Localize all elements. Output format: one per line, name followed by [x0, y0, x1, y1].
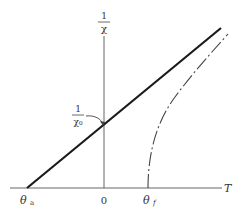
theta-a-label: θ a: [20, 194, 34, 207]
x-axis-label: T: [224, 182, 233, 195]
y-axis-label: 1 χ: [98, 11, 110, 34]
svg-text:θ: θ: [143, 194, 150, 207]
svg-text:f: f: [152, 199, 157, 207]
dash-dot-curve: [148, 34, 228, 188]
svg-text:1: 1: [101, 11, 107, 21]
curie-weiss-diagram: 1 χ 1 χ₀ T θ a 0 θ f: [0, 0, 239, 210]
svg-text:θ: θ: [20, 194, 27, 207]
svg-text:1: 1: [75, 104, 81, 114]
origin-label: 0: [101, 195, 107, 206]
theta-f-label: θ f: [143, 194, 157, 207]
svg-text:χ: χ: [101, 23, 107, 34]
svg-text:χ₀: χ₀: [73, 117, 82, 127]
intercept-label: 1 χ₀: [72, 104, 84, 127]
svg-text:a: a: [30, 199, 34, 207]
intercept-arrow: [86, 116, 103, 124]
straight-line: [27, 28, 221, 188]
